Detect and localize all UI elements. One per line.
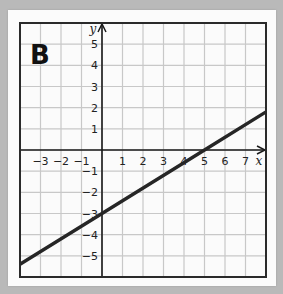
- coordinate-plane: −3−2−1123456754321−1−2−3−4−5 B x y: [0, 0, 283, 294]
- x-tick-label: 1: [119, 155, 126, 168]
- y-tick-label: 2: [91, 102, 98, 115]
- x-tick-label: −2: [53, 155, 69, 168]
- y-tick-label: −5: [82, 250, 98, 263]
- y-axis-label: y: [89, 22, 97, 36]
- x-axis-label: x: [256, 154, 263, 168]
- y-tick-label: 4: [91, 59, 98, 72]
- x-tick-label: 5: [201, 155, 208, 168]
- x-tick-label: 7: [242, 155, 249, 168]
- x-tick-label: 6: [222, 155, 229, 168]
- panel-label: B: [30, 40, 50, 70]
- x-tick-label: 3: [160, 155, 167, 168]
- y-tick-label: −2: [82, 186, 98, 199]
- y-tick-label: 3: [91, 81, 98, 94]
- y-tick-label: −4: [82, 229, 98, 242]
- y-tick-label: 5: [91, 38, 98, 51]
- x-tick-label: −3: [32, 155, 48, 168]
- x-tick-label: 2: [140, 155, 147, 168]
- y-tick-label: 1: [91, 123, 98, 136]
- y-tick-label: −1: [82, 165, 98, 178]
